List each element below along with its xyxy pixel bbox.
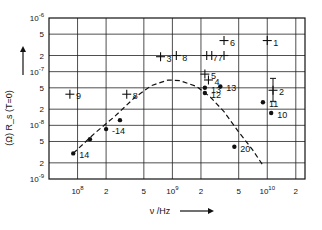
point-label: 6 [230,38,235,48]
tick-label: 2 [199,187,204,196]
tick-label: 2 [40,52,45,61]
scatter-chart: 10-92510-82510-72510-6 108251092510102 1… [0,0,322,230]
tick-label: 2 [294,187,299,196]
cross-marker: 7 [202,51,218,63]
dot-marker: 14 [71,150,89,160]
point-label: 2 [279,87,284,97]
point-label: 3 [167,54,172,64]
point-label: 5 [211,71,216,81]
tick-label: 108 [71,185,84,196]
point-label: 11 [269,99,278,109]
point-label: 7 [218,53,223,63]
cross-marker: 8 [172,51,188,63]
dot-marker [118,118,122,122]
tick-label: 5 [40,137,45,146]
tick-label: 5 [40,84,45,93]
dot-marker: 10 [269,110,287,120]
tick-label: 2 [104,187,109,196]
cross-marker: 3 [156,52,172,64]
cross-marker: 6 [220,36,236,48]
y-axis-ticks: 10-92510-82510-72510-6 [30,12,45,184]
tick-label: 2 [40,105,45,114]
cross-marker: 2 [269,78,285,101]
tick-label: 5 [236,187,241,196]
cross-marker: 1 [263,36,279,48]
cross-marker: 8 [122,90,138,102]
y-axis-arrow-icon [20,46,26,75]
dot-marker [88,137,92,141]
x-axis-ticks: 108251092510102 [71,185,298,196]
y-axis-label: (Ω) R_s (T=0) [4,90,14,145]
point-label: 1 [273,38,278,48]
point-label: 14 [79,150,89,160]
x-axis-arrow-icon [180,208,214,214]
point-label: -14 [112,126,125,136]
tick-label: 10-9 [30,173,45,184]
point-label: 9 [76,91,81,101]
dot-marker: 11 [261,99,279,109]
point-label: 13 [226,83,236,93]
tick-label: 10-8 [30,119,45,130]
dot-marker: 20 [232,144,250,154]
tick-label: 10-6 [30,12,45,23]
y-axis-label-text: (Ω) R_s (T=0) [4,90,14,145]
point-label: 8 [133,91,138,101]
tick-label: 5 [142,187,147,196]
tick-label: 1010 [259,185,275,196]
point-label: 20 [240,144,250,154]
tick-label: 109 [166,185,179,196]
dot-marker: -14 [104,126,125,136]
point-label: 10 [277,110,287,120]
tick-label: 10-7 [30,66,45,77]
cross-marker: 9 [65,90,81,102]
point-label: 8 [182,53,187,63]
tick-label: 5 [40,30,45,39]
x-axis-label: ν /Hz [150,206,171,216]
tick-label: 2 [40,159,45,168]
